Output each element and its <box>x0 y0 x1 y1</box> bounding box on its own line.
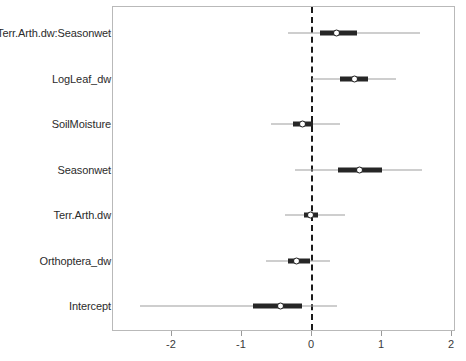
row-label-orthoptera-dw: Orthoptera_dw <box>40 255 111 267</box>
row-label-terr-arth-dw: Terr.Arth.dw <box>54 209 112 221</box>
x-axis-tick-label: -2 <box>166 338 176 350</box>
coefficient-row: LogLeaf_dw <box>0 67 466 91</box>
y-axis-tick <box>107 260 111 261</box>
x-axis-tick-label: 2 <box>448 338 454 350</box>
y-axis-tick <box>107 78 111 79</box>
row-label-logleaf-dw: LogLeaf_dw <box>52 73 111 85</box>
x-axis-tick <box>311 331 312 336</box>
x-axis-tick-label: 1 <box>378 338 384 350</box>
x-axis-tick-label: 0 <box>308 338 314 350</box>
estimate-point <box>299 121 306 128</box>
coefficient-row: Orthoptera_dw <box>0 249 466 273</box>
estimate-point <box>356 166 363 173</box>
row-label-soilmoisture: SoilMoisture <box>52 118 111 130</box>
estimate-point <box>333 30 340 37</box>
x-axis-tick <box>451 331 452 336</box>
coefficient-row: Terr.Arth.dw <box>0 203 466 227</box>
estimate-point <box>293 257 300 264</box>
x-axis-tick <box>381 331 382 336</box>
x-axis-tick <box>241 331 242 336</box>
coefficient-plot: Terr.Arth.dw:SeasonwetLogLeaf_dwSoilMois… <box>0 0 466 361</box>
y-axis-tick <box>107 306 111 307</box>
y-axis-tick <box>107 33 111 34</box>
row-label-intercept: Intercept <box>69 300 111 312</box>
x-axis-tick <box>171 331 172 336</box>
y-axis-tick <box>107 169 111 170</box>
estimate-point <box>277 303 284 310</box>
estimate-point <box>307 212 314 219</box>
coefficient-row: Intercept <box>0 294 466 318</box>
x-axis-tick-label: -1 <box>236 338 246 350</box>
row-label-seasonwet: Seasonwet <box>57 164 111 176</box>
coefficient-row: SoilMoisture <box>0 112 466 136</box>
estimate-point <box>351 75 358 82</box>
row-label-terr-arth-dw-seasonwet: Terr.Arth.dw:Seasonwet <box>0 27 111 39</box>
outer-interval-bar <box>140 306 337 307</box>
y-axis-tick <box>107 215 111 216</box>
coefficient-row: Terr.Arth.dw:Seasonwet <box>0 21 466 45</box>
y-axis-tick <box>107 124 111 125</box>
coefficient-row: Seasonwet <box>0 158 466 182</box>
